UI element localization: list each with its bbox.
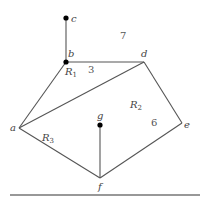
edge-a-f [19, 128, 100, 178]
vertex-label-d: d [141, 48, 147, 59]
vertex-label-f: f [97, 181, 104, 192]
region-degree-r1: 3 [88, 64, 94, 75]
vertex-g-dot [97, 122, 102, 127]
vertex-label-b: b [68, 48, 74, 59]
edge-a-b [19, 62, 66, 128]
region-degree-outer: 7 [120, 30, 126, 41]
edge-a-d [19, 62, 144, 128]
vertex-label-e: e [184, 119, 190, 130]
vertex-b-dot [63, 59, 68, 64]
vertex-c-dot [63, 15, 68, 20]
region-label-r1: R1 [64, 66, 77, 79]
region-label-r2: R2 [129, 99, 142, 112]
vertex-label-c: c [71, 13, 77, 24]
edge-e-f [100, 123, 182, 178]
planar-graph-diagram: c b d a e g f R1 R2 R3 3 6 7 [0, 0, 200, 198]
region-degree-r2: 6 [151, 117, 157, 128]
vertex-label-a: a [10, 122, 16, 133]
edge-d-e [144, 62, 182, 123]
vertex-label-g: g [97, 110, 103, 121]
